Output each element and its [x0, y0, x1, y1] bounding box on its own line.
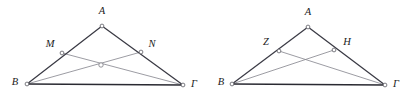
vertex-node-m	[60, 51, 64, 55]
vertex-label-g: Γ	[392, 78, 400, 89]
side-ab	[232, 27, 308, 84]
cevian-gz	[279, 51, 385, 85]
vertex-label-g: Γ	[190, 78, 198, 89]
vertex-node-b	[230, 82, 234, 86]
vertex-node-g	[383, 83, 387, 87]
side-ab	[27, 26, 102, 84]
vertex-label-a: A	[98, 5, 106, 16]
vertex-node-z	[277, 49, 281, 53]
cevian-bn	[27, 52, 141, 84]
intersection-point-left	[99, 63, 103, 67]
vertex-label-b: B	[218, 76, 225, 87]
vertex-label-n: N	[147, 38, 156, 49]
cevian-bh	[232, 50, 334, 84]
vertex-node-a	[306, 25, 310, 29]
vertex-label-z: Z	[263, 36, 269, 47]
vertex-label-a: A	[304, 6, 312, 17]
vertex-node-n	[139, 50, 143, 54]
side-bg	[27, 84, 183, 85]
vertex-label-m: M	[45, 38, 56, 49]
side-ag	[102, 26, 183, 85]
triangle-abg-with-zh: ABΓZH	[218, 6, 400, 89]
geometry-figure-canvas: ABΓMNABΓZH	[0, 0, 412, 106]
vertex-node-h	[332, 48, 336, 52]
vertex-label-b: B	[12, 76, 19, 87]
vertex-label-h: H	[342, 36, 352, 47]
side-bg	[232, 84, 385, 85]
vertex-node-a	[100, 24, 104, 28]
vertex-node-b	[25, 82, 29, 86]
vertex-node-g	[181, 83, 185, 87]
triangle-abg-with-mn: ABΓMN	[12, 5, 198, 89]
geometry-diagram: ABΓMNABΓZH	[0, 0, 412, 106]
